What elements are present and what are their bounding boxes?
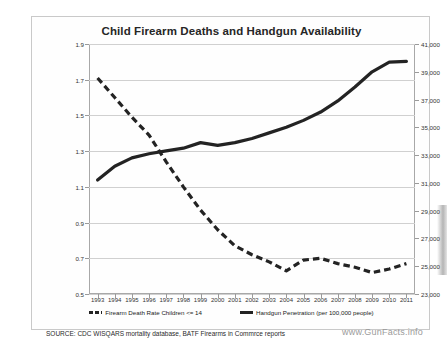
legend-item-handgun-penetration[interactable]: Handgun Penetration (per 100,000 people) — [240, 309, 374, 316]
x-axis-tick — [304, 294, 305, 298]
legend-label-firearm-death-rate: Firearm Death Rate Children <= 14 — [105, 309, 202, 316]
x-axis-tick — [235, 294, 236, 298]
y-axis-right-tick — [415, 294, 419, 295]
y-axis-right-label: 33,000 — [421, 152, 440, 159]
x-axis-tick — [166, 294, 167, 298]
chart-legend: Firearm Death Rate Children <= 14 Handgu… — [32, 309, 431, 316]
x-axis-tick — [406, 294, 407, 298]
y-axis-right-tick — [415, 238, 419, 239]
x-axis-tick — [338, 294, 339, 298]
x-axis-tick — [372, 294, 373, 298]
y-axis-left-label: 1.7 — [75, 76, 84, 83]
legend-label-handgun-penetration: Handgun Penetration (per 100,000 people) — [256, 309, 374, 316]
x-axis-tick — [149, 294, 150, 298]
y-axis-left-label: 0.9 — [75, 219, 84, 226]
x-axis-tick — [252, 294, 253, 298]
y-axis-right-tick — [415, 266, 419, 267]
solid-line-swatch-icon — [240, 311, 253, 314]
x-axis-tick — [321, 294, 322, 298]
chart-title: Child Firearm Deaths and Handgun Availab… — [32, 25, 431, 37]
y-axis-left-label: 1.5 — [75, 112, 84, 119]
x-axis-tick — [201, 294, 202, 298]
handgun-penetration-line — [98, 61, 407, 180]
firearm-death-rate-line — [98, 78, 407, 273]
x-axis-tick — [132, 294, 133, 298]
chart-container: Child Firearm Deaths and Handgun Availab… — [31, 16, 430, 330]
y-axis-left-tick — [85, 294, 89, 295]
y-axis-left-label: 0.5 — [75, 291, 84, 298]
y-axis-right-tick — [415, 127, 419, 128]
dashed-line-swatch-icon — [89, 311, 102, 314]
y-axis-right-tick — [415, 100, 419, 101]
legend-item-firearm-death-rate[interactable]: Firearm Death Rate Children <= 14 — [89, 309, 202, 316]
y-axis-right-tick — [415, 72, 419, 73]
y-axis-right-label: 23,000 — [421, 291, 440, 298]
y-axis-left-label: 1.3 — [75, 148, 84, 155]
x-axis-tick — [355, 294, 356, 298]
x-axis-tick — [183, 294, 184, 298]
y-axis-right-label: 31,000 — [421, 179, 440, 186]
watermark-gunfacts: www.GunFacts.info — [342, 327, 423, 337]
plot-area: 0.50.70.91.11.31.51.71.9 23,00025,00027,… — [89, 44, 415, 294]
y-axis-left-label: 0.7 — [75, 255, 84, 262]
x-axis-tick — [286, 294, 287, 298]
y-axis-right-label: 39,000 — [421, 68, 440, 75]
x-axis-tick — [218, 294, 219, 298]
y-axis-right-label: 35,000 — [421, 124, 440, 131]
x-axis-tick — [269, 294, 270, 298]
y-axis-right-tick — [415, 183, 419, 184]
y-axis-left-label: 1.9 — [75, 41, 84, 48]
y-axis-right-label: 41,000 — [421, 41, 440, 48]
y-axis-right-tick — [415, 44, 419, 45]
y-axis-left-label: 1.1 — [75, 183, 84, 190]
x-axis-tick — [389, 294, 390, 298]
y-axis-right-tick — [415, 211, 419, 212]
x-axis-tick — [115, 294, 116, 298]
scan-edge-artifact — [437, 205, 447, 275]
y-axis-right-tick — [415, 155, 419, 156]
series-lines — [89, 44, 415, 294]
x-axis-tick — [98, 294, 99, 298]
source-note: SOURCE: CDC WISQARS mortality database, … — [46, 330, 285, 337]
y-axis-right-label: 37,000 — [421, 96, 440, 103]
